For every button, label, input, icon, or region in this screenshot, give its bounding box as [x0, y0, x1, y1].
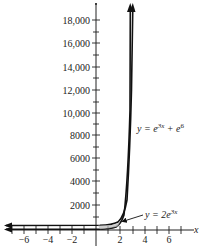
y-axis: 18,000 16,000 14,000 12,000 10,000 8000 … [63, 3, 101, 246]
y-tick-16000: 16,000 [63, 38, 91, 49]
label-e3x-plus-e6: y = e3x + e6 [136, 122, 184, 134]
x-tick-minus-6: −6 [19, 234, 30, 245]
x-axis-label: x [193, 224, 199, 235]
x-tick-4: 4 [143, 234, 148, 245]
y-tick-12000: 12,000 [63, 85, 91, 96]
x-tick-minus-4: −4 [43, 234, 54, 245]
x-tick-6: 6 [167, 234, 172, 245]
label-2e3x: y = 2e3x [144, 208, 178, 220]
y-tick-14000: 14,000 [63, 62, 91, 73]
y-axis-end-dot [95, 3, 97, 5]
y-tick-10000: 10,000 [63, 108, 91, 119]
y-tick-18000: 18,000 [63, 15, 91, 26]
y-tick-4000: 4000 [70, 176, 90, 187]
exponential-functions-chart: 18,000 16,000 14,000 12,000 10,000 8000 … [0, 0, 199, 246]
x-tick-2: 2 [118, 234, 123, 245]
x-tick-minus-2: −2 [67, 234, 78, 245]
y-tick-2000: 2000 [70, 200, 90, 211]
y-tick-8000: 8000 [70, 130, 90, 141]
pointer-arrow-icon [124, 215, 143, 221]
curve2-left-arrow-icon [4, 227, 12, 233]
y-tick-6000: 6000 [70, 153, 90, 164]
